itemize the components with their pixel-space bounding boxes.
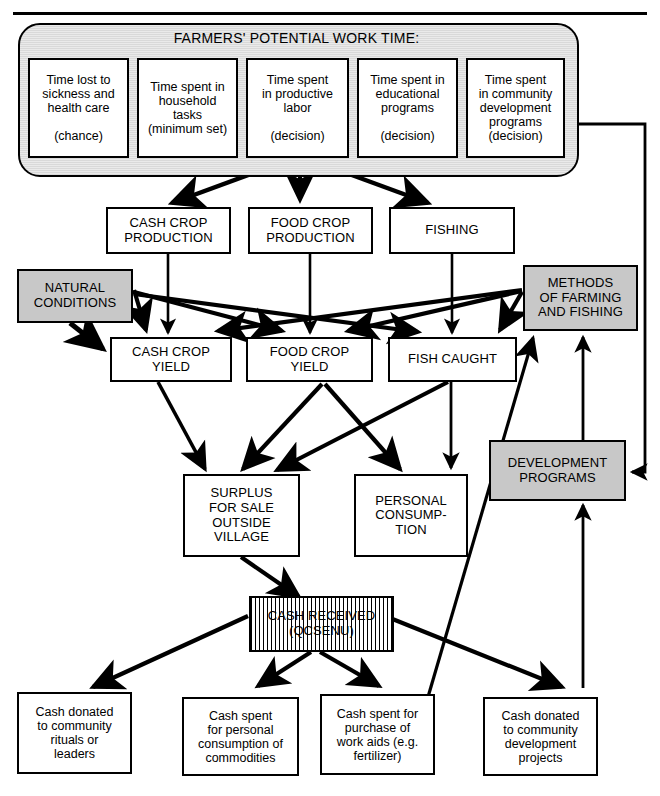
node-label: FISH CAUGHT (406, 352, 499, 367)
node-cash-development[interactable]: Cash donatedto communitydevelopmentproje… (483, 697, 598, 776)
edge-natural-to-cashyield (70, 323, 103, 349)
node-development-programs[interactable]: DEVELOPMENTPROGRAMS (489, 440, 626, 501)
node-cash-crop-production[interactable]: CASH CROPPRODUCTION (106, 207, 231, 254)
edge-foodyield-to-surplus (243, 384, 322, 469)
edge-fishcaught-to-surplus (277, 382, 448, 470)
node-cash-rituals[interactable]: Cash donatedto communityrituals orleader… (17, 692, 132, 774)
node-label: Time lost tosickness andhealth care(chan… (40, 73, 116, 143)
node-label: Cash donatedto communitydevelopmentproje… (500, 709, 582, 765)
edge-surplus-to-cashreceived (241, 557, 299, 597)
node-time-productive[interactable]: Time spentin productivelabor(decision) (246, 58, 349, 158)
node-label: FOOD CROPYIELD (268, 345, 352, 374)
node-label: CASH CROPYIELD (130, 345, 212, 374)
node-time-educational[interactable]: Time spent ineducationalprograms(decisio… (357, 58, 458, 158)
node-label: CASH CROPPRODUCTION (122, 216, 214, 245)
node-label: Time spentin productivelabor(decision) (260, 73, 335, 143)
node-label: CASH RECEIVED(QCSENU) (266, 609, 378, 638)
node-natural-conditions[interactable]: NATURALCONDITIONS (17, 269, 133, 323)
node-label: Cash spent forpurchase ofwork aids (e.g.… (335, 707, 420, 763)
edge-methods-to-fishcaught (500, 292, 522, 330)
node-food-crop-yield[interactable]: FOOD CROPYIELD (246, 337, 373, 382)
node-label: SURPLUSFOR SALEOUTSIDEVILLAGE (207, 486, 276, 544)
edge-cashreceived-to-development (390, 618, 562, 687)
node-cash-received[interactable]: CASH RECEIVED(QCSENU) (249, 596, 394, 652)
top-group-title: FARMERS' POTENTIAL WORK TIME: (18, 30, 575, 46)
node-label: Time spent ineducationalprograms(decisio… (368, 73, 447, 143)
node-time-household[interactable]: Time spent inhouseholdtasks(minimum set) (137, 58, 238, 158)
node-cash-work-aids[interactable]: Cash spent forpurchase ofwork aids (e.g.… (320, 694, 435, 775)
node-label: DEVELOPMENTPROGRAMS (506, 456, 609, 485)
node-label: FISHING (423, 223, 480, 238)
node-label: Cash spentfor personalconsumption ofcomm… (196, 709, 285, 765)
node-label: Time spent inhouseholdtasks(minimum set) (146, 80, 229, 136)
node-time-community[interactable]: Time spentin communitydevelopmentprogram… (466, 58, 565, 158)
node-food-crop-production[interactable]: FOOD CROPPRODUCTION (248, 207, 373, 254)
node-label: METHODSOF FARMINGAND FISHING (536, 276, 625, 320)
node-fishing[interactable]: FISHING (389, 207, 515, 254)
node-surplus-for-sale[interactable]: SURPLUSFOR SALEOUTSIDEVILLAGE (183, 474, 300, 557)
edge-cashreceived-to-workaids (320, 652, 379, 686)
edge-cashyield-to-surplus (158, 382, 205, 469)
node-label: Time spentin communitydevelopmentprogram… (477, 73, 555, 143)
node-label: FOOD CROPPRODUCTION (264, 216, 356, 245)
node-label: Cash donatedto communityrituals orleader… (34, 705, 116, 761)
node-personal-consumption[interactable]: PERSONALCONSUMP-TION (354, 474, 468, 557)
node-methods-of-farming[interactable]: METHODSOF FARMINGAND FISHING (523, 265, 638, 331)
edge-cashreceived-to-rituals (93, 616, 248, 687)
edge-cashreceived-to-personal (258, 652, 311, 686)
node-label: NATURALCONDITIONS (32, 281, 119, 310)
node-cash-crop-yield[interactable]: CASH CROPYIELD (110, 337, 232, 382)
diagram-canvas: FARMERS' POTENTIAL WORK TIME: Time lost … (0, 0, 660, 796)
node-fish-caught[interactable]: FISH CAUGHT (388, 337, 517, 382)
node-label: PERSONALCONSUMP-TION (373, 494, 449, 538)
node-cash-personal-consumption[interactable]: Cash spentfor personalconsumption ofcomm… (182, 697, 299, 776)
node-time-sickness[interactable]: Time lost tosickness andhealth care(chan… (28, 58, 129, 158)
